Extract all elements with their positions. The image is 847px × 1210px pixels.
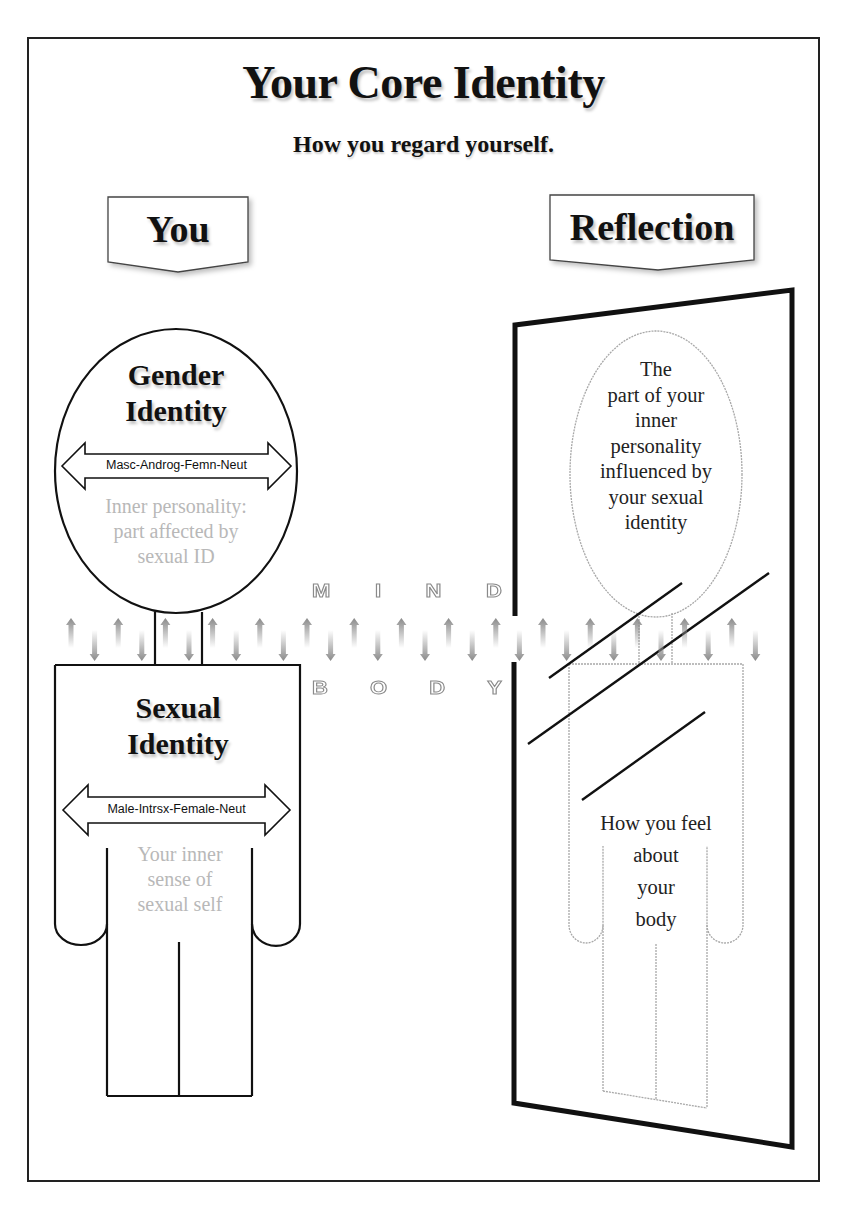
up-arrow-icon: [632, 618, 642, 648]
down-arrow-icon: [467, 630, 477, 661]
mind-body-arrow-band: [66, 618, 760, 661]
down-arrow-icon: [326, 630, 336, 661]
you-banner: You: [108, 207, 248, 251]
down-arrow-icon: [562, 630, 572, 661]
up-arrow-icon: [396, 618, 406, 648]
body-label: B O D Y: [312, 675, 502, 701]
mirror-glare-lines: [528, 573, 769, 800]
up-arrow-icon: [255, 618, 265, 648]
up-arrow-icon: [585, 618, 595, 648]
down-arrow-icon: [750, 630, 760, 661]
down-arrow-icon: [137, 630, 147, 661]
gender-scale-label: Masc-Androg-Femn-Neut: [62, 458, 291, 472]
up-arrow-icon: [160, 618, 170, 648]
down-arrow-icon: [514, 630, 524, 661]
down-arrow-icon: [184, 630, 194, 661]
mind-label: M I N D: [312, 578, 502, 604]
up-arrow-icon: [538, 618, 548, 648]
reflection-banner: Reflection: [550, 205, 754, 249]
down-arrow-icon: [231, 630, 241, 661]
up-arrow-icon: [727, 618, 737, 648]
gender-identity-description: Inner personality: part affected by sexu…: [56, 494, 296, 569]
up-arrow-icon: [349, 618, 359, 648]
sexual-scale-label: Male-Intrsx-Female-Neut: [63, 802, 290, 816]
up-arrow-icon: [491, 618, 501, 648]
gender-identity-label: Gender Identity: [56, 357, 296, 429]
down-arrow-icon: [278, 630, 288, 661]
sexual-identity-label: Sexual Identity: [56, 690, 300, 762]
down-arrow-icon: [373, 630, 383, 661]
up-arrow-icon: [208, 618, 218, 648]
down-arrow-icon: [90, 630, 100, 661]
up-arrow-icon: [66, 618, 76, 648]
reflection-head-description: The part of your inner personality influ…: [570, 357, 742, 536]
down-arrow-icon: [703, 630, 713, 661]
up-arrow-icon: [113, 618, 123, 648]
down-arrow-icon: [656, 630, 666, 661]
diagram-drawing: [0, 0, 847, 1210]
up-arrow-icon: [444, 618, 454, 648]
sexual-identity-description: Your inner sense of sexual self: [108, 842, 252, 917]
down-arrow-icon: [420, 630, 430, 661]
up-arrow-icon: [680, 618, 690, 648]
up-arrow-icon: [302, 618, 312, 648]
reflection-body-description: How you feel about your body: [570, 807, 742, 935]
